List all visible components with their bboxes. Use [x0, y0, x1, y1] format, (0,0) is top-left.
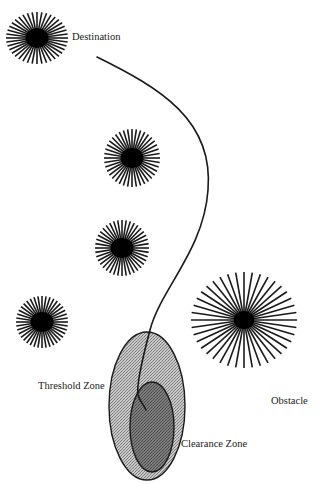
obstacle-star [16, 296, 68, 348]
obstacles-layer [6, 12, 297, 368]
obstacle-star [104, 129, 160, 187]
obstacle-star [191, 272, 297, 368]
threshold-zone-label: Threshold Zone [38, 380, 105, 392]
clearance-zone-label: Clearance Zone [181, 438, 247, 450]
diagram-canvas [0, 0, 324, 484]
destination-star [6, 12, 68, 64]
obstacle-star [95, 220, 149, 276]
obstacle-label: Obstacle [271, 395, 308, 407]
destination-label: Destination [72, 31, 120, 43]
clearance-zone [130, 382, 174, 472]
